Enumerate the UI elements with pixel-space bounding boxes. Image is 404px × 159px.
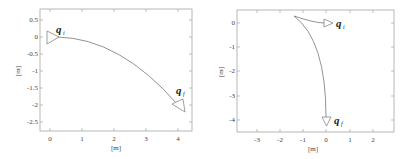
end-marker-icon (322, 117, 331, 126)
x-tick: 1 (348, 136, 352, 144)
x-tick: -1 (300, 136, 306, 144)
y-tick: -2 (229, 67, 235, 75)
left-axes-box (40, 9, 192, 131)
x-axis-label: [m] (308, 145, 318, 153)
x-tick: -2 (277, 136, 283, 144)
y-tick: 0.5 (29, 16, 38, 24)
x-tick: 0 (324, 136, 328, 144)
qi-subscript: i (63, 30, 65, 36)
qf-subscript: f (183, 91, 186, 97)
y-tick: -3 (229, 92, 235, 100)
qf-label: q (334, 114, 340, 126)
qf-label: q (176, 84, 182, 96)
trajectory-line (294, 16, 326, 117)
qf-subscript: f (341, 121, 344, 127)
x-tick: 2 (112, 135, 116, 143)
figure: 0 1 2 3 4 0.5 0 -0.5 -1 -1.5 -2 -2.5 [m]… (0, 0, 404, 159)
qi-label: q (336, 17, 342, 29)
x-axis-label: [m] (111, 144, 121, 152)
x-tick: 1 (80, 135, 84, 143)
x-tick: 3 (144, 135, 148, 143)
y-tick: 0 (35, 33, 39, 41)
y-tick: -1 (32, 67, 38, 75)
x-tick: 0 (48, 135, 52, 143)
y-tick: 0 (232, 19, 236, 27)
y-axis-label: [m] (217, 67, 225, 77)
y-tick: -2.5 (27, 118, 39, 126)
trajectory-line (57, 37, 178, 105)
qi-subscript: i (343, 24, 345, 30)
y-tick: -2 (32, 101, 38, 109)
y-tick: -1.5 (27, 84, 39, 92)
y-tick: -4 (229, 116, 235, 124)
x-tick: 4 (176, 135, 180, 143)
x-tick: 2 (371, 136, 375, 144)
y-tick: -0.5 (27, 50, 39, 58)
right-plot: -3 -2 -1 0 1 2 0 -1 -2 -3 -4 [m] [m] q i… (217, 10, 394, 153)
qi-label: q (56, 23, 62, 35)
left-plot: 0 1 2 3 4 0.5 0 -0.5 -1 -1.5 -2 -2.5 [m]… (14, 9, 192, 152)
y-tick: -1 (229, 43, 235, 51)
right-axes-box (237, 10, 394, 132)
y-axis-label: [m] (14, 66, 22, 76)
x-tick: -3 (254, 136, 260, 144)
start-marker-icon (324, 19, 333, 27)
